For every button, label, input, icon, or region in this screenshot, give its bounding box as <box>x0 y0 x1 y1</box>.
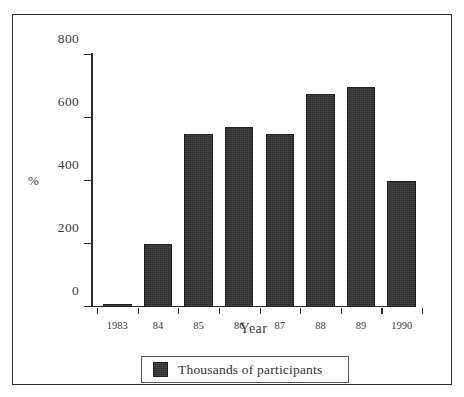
bar <box>347 87 375 308</box>
bar <box>266 134 294 307</box>
x-axis-title: Year <box>91 321 416 337</box>
plot-area: 0200400600800 19838485868788891990 % <box>91 53 416 309</box>
legend-swatch-icon <box>153 362 168 377</box>
y-tick-mark: 800 <box>84 54 91 55</box>
y-tick-label: 0 <box>72 283 79 299</box>
y-tick-mark: 400 <box>84 180 91 181</box>
chart-legend: Thousands of participants <box>141 356 349 383</box>
x-tick-mark <box>381 308 382 314</box>
y-tick-label: 600 <box>58 94 79 110</box>
y-tick-label: 200 <box>58 220 79 236</box>
bar <box>225 127 253 307</box>
x-tick-mark <box>341 308 342 314</box>
y-axis-title: % <box>28 173 39 189</box>
x-tick-mark <box>97 308 98 314</box>
x-tick-mark <box>138 308 139 314</box>
x-tick-mark <box>300 308 301 314</box>
bar <box>306 94 334 307</box>
legend-label: Thousands of participants <box>178 362 322 378</box>
bar <box>103 304 131 307</box>
bar <box>387 181 415 307</box>
x-tick-mark <box>178 308 179 314</box>
y-tick-label: 400 <box>58 157 79 173</box>
x-tick-mark <box>219 308 220 314</box>
y-tick-mark: 0 <box>84 306 91 307</box>
bar <box>144 244 172 307</box>
x-tick-mark <box>260 308 261 314</box>
chart-frame-border: 0200400600800 19838485868788891990 % Yea… <box>12 14 452 385</box>
y-tick-mark: 200 <box>84 243 91 244</box>
y-tick-mark: 600 <box>84 117 91 118</box>
chart-figure: 0200400600800 19838485868788891990 % Yea… <box>0 0 464 397</box>
y-axis-line <box>91 53 93 307</box>
x-tick-mark <box>422 308 423 314</box>
y-tick-label: 800 <box>58 31 79 47</box>
bar <box>184 134 212 307</box>
